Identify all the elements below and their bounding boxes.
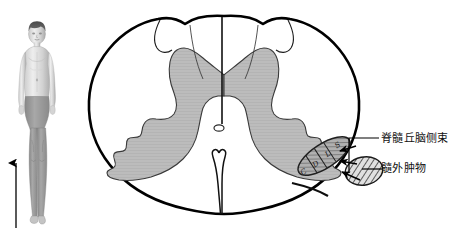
central-canal [214,125,224,131]
label-lateral-spinothalamic-tract: 脊髓丘脑侧束 [381,132,449,145]
lower-body-shaded-region [25,97,50,225]
spinal-cord-cross-section [89,16,359,214]
spinal-cord-diagram-svg: S L D C [0,0,449,236]
patient-figure [16,21,55,228]
label-extramedullary-mass: 髓外肿物 [381,162,426,175]
figure-root: S L D C 脊髓丘脑侧束 髓外肿物 [0,0,449,236]
